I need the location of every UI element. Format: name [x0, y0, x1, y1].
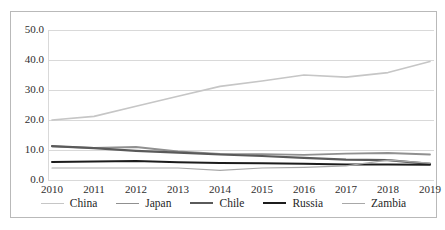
legend-item-china[interactable]: China — [41, 197, 97, 209]
x-axis-tick-label: 2010 — [29, 183, 75, 195]
legend-label: China — [70, 197, 97, 209]
series-line-china — [52, 62, 430, 121]
legend-swatch-zambia-icon — [342, 203, 365, 204]
legend-item-chile[interactable]: Chile — [190, 197, 244, 209]
x-axis-tick-label: 2012 — [113, 183, 159, 195]
legend-item-russia[interactable]: Russia — [263, 197, 323, 209]
legend-label: Russia — [292, 197, 323, 209]
x-axis-tick-label: 2015 — [239, 183, 285, 195]
x-axis-tick-label: 2014 — [197, 183, 243, 195]
y-axis-tick-label: 10.0 — [2, 144, 44, 155]
x-axis-tick-label: 2019 — [407, 183, 445, 195]
y-axis-tick-label: 20.0 — [2, 114, 44, 125]
y-axis-tick-label: 40.0 — [2, 54, 44, 65]
series-line-japan — [52, 146, 430, 154]
y-axis-tick-label: 50.0 — [2, 24, 44, 35]
legend-swatch-japan-icon — [116, 203, 139, 204]
legend-item-zambia[interactable]: Zambia — [342, 197, 406, 209]
legend-swatch-china-icon — [41, 203, 64, 204]
x-axis-tick-label: 2011 — [71, 183, 117, 195]
x-axis-tick-label: 2013 — [155, 183, 201, 195]
gridline — [48, 180, 434, 181]
legend-item-japan[interactable]: Japan — [116, 197, 171, 209]
y-axis-tick-label: 30.0 — [2, 84, 44, 95]
legend-label: Chile — [219, 197, 244, 209]
series-lines — [48, 30, 434, 180]
x-axis-tick-label: 2017 — [323, 183, 369, 195]
legend-label: Zambia — [371, 197, 406, 209]
chart-legend: ChinaJapanChileRussiaZambia — [10, 197, 437, 209]
x-axis-tick-label: 2018 — [365, 183, 411, 195]
legend-label: Japan — [145, 197, 171, 209]
chart-plot-wrapper: 0.010.020.030.040.050.0 2010201120122013… — [0, 0, 445, 230]
x-axis-tick-label: 2016 — [281, 183, 327, 195]
legend-swatch-chile-icon — [190, 202, 213, 204]
legend-swatch-russia-icon — [263, 202, 286, 204]
